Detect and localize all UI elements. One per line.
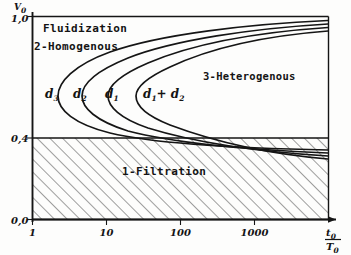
x-tick-label-1000: 1000: [241, 227, 269, 238]
curve-label-d2: d2: [73, 87, 87, 103]
label-2-homogenous: 2-Homogenous: [34, 40, 118, 53]
x-tick-label-10: 10: [100, 227, 114, 238]
x-axis-title: t0 T0: [325, 227, 341, 255]
x-tick-labels: 1 10 100 1000: [29, 227, 268, 238]
x-axis-arrow: [328, 216, 336, 222]
y-tick-labels: 1,0 0,4 0,0: [11, 13, 28, 227]
x-tick-label-100: 100: [170, 227, 191, 238]
y-tick-label-0-4: 0,4: [11, 133, 28, 145]
curve-label-d1: d1: [105, 87, 119, 103]
curve-label-d1-plus-d2: d1+ d2: [143, 87, 184, 103]
curve-d2: [82, 24, 328, 153]
y-tick-label-0-0: 0,0: [11, 215, 28, 227]
x-axis-title-denominator: T0: [326, 241, 339, 255]
x-axis-title-numerator: t0: [326, 227, 337, 241]
y-axis: [27, 12, 33, 222]
fluidization-regime-chart: Fluidization 2-Homogenous 3-Heterogenous…: [0, 0, 351, 255]
curve-label-d3: d3: [45, 87, 59, 103]
label-3-heterogenous: 3-Heterogenous: [203, 70, 296, 82]
curve-d1: [108, 28, 328, 157]
figure-container: Fluidization 2-Homogenous 3-Heterogenous…: [0, 0, 351, 255]
label-1-filtration: 1-Filtration: [122, 165, 206, 178]
curve-labels: d3 d2 d1 d1+ d2: [45, 87, 184, 103]
x-tick-label-1: 1: [29, 227, 36, 238]
label-fluidization: Fluidization: [43, 22, 127, 35]
y-tick-label-1-0: 1,0: [11, 13, 28, 25]
